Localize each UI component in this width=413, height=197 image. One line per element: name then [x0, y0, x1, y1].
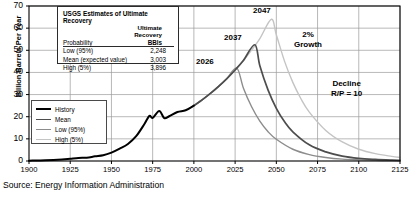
usgs-row-label-high: High (5%)	[63, 64, 91, 73]
legend-color-swatch	[36, 119, 51, 120]
legend-item-label: Mean	[55, 116, 71, 123]
legend-color-swatch	[36, 129, 51, 130]
usgs-table-header-row: Probability BBls	[63, 39, 174, 48]
y-tick-label: 40	[1, 66, 23, 76]
usgs-col-header-bbls: BBls	[148, 39, 174, 46]
usgs-subheader-line-2: Recovery	[63, 32, 174, 39]
x-tick-label: 2050	[256, 165, 296, 174]
legend-item: High (5%)	[36, 134, 106, 144]
legend-item: History	[36, 104, 106, 114]
y-axis-title: Billion Barrels Per Year	[14, 0, 23, 119]
x-tick-label: 2125	[380, 165, 413, 174]
peak-label-2047: 2047	[253, 6, 271, 15]
y-tick-label: 70	[1, 0, 23, 10]
y-tick-label: 60	[1, 22, 23, 32]
x-tick-label: 1975	[133, 165, 173, 174]
y-tick-label: 30	[1, 89, 23, 99]
x-tick-label: 2100	[339, 165, 379, 174]
usgs-row-label-low: Low (95%)	[63, 47, 93, 56]
legend-item: Low (95%)	[36, 124, 106, 134]
usgs-row-value-high: 3,896	[150, 64, 174, 73]
x-tick-label: 2000	[174, 165, 214, 174]
usgs-table-title: USGS Estimates of Ultimate Recovery	[63, 10, 174, 24]
usgs-col-header-probability: Probability	[63, 39, 92, 46]
y-tick-label: 50	[1, 44, 23, 54]
table-row: Mean (expected value) 3,003	[63, 56, 174, 65]
y-tick-label: 20	[1, 111, 23, 121]
usgs-row-value-low: 2,248	[150, 47, 174, 56]
x-tick-label: 2025	[215, 165, 255, 174]
chart-area: Billion Barrels Per Year USGS Estimates …	[0, 0, 406, 175]
growth-label: 2%Growth	[294, 30, 322, 50]
legend-item: Mean	[36, 114, 106, 124]
y-tick-label: 0	[1, 155, 23, 165]
x-tick-label: 2075	[298, 165, 338, 174]
usgs-estimates-table: USGS Estimates of Ultimate Recovery Ulti…	[57, 6, 179, 64]
peak-label-2026: 2026	[196, 57, 214, 66]
legend-item-label: High (5%)	[55, 136, 83, 143]
table-row: Low (95%) 2,248	[63, 47, 174, 56]
table-row: High (5%) 3,896	[63, 64, 174, 73]
legend-color-swatch	[36, 139, 51, 140]
chart-legend: HistoryMeanLow (95%)High (5%)	[31, 100, 107, 144]
decline-label: DeclineR/P = 10	[331, 79, 362, 99]
usgs-row-value-mean: 3,003	[150, 56, 174, 65]
peak-label-2037: 2037	[224, 33, 242, 42]
x-tick-label: 1950	[91, 165, 131, 174]
source-note: Source: Energy Information Administratio…	[3, 180, 164, 190]
x-tick-label: 1925	[50, 165, 90, 174]
legend-item-label: History	[55, 106, 75, 113]
y-tick-label: 10	[1, 133, 23, 143]
x-tick-label: 1900	[9, 165, 49, 174]
series-line-mean	[194, 45, 400, 161]
usgs-row-label-mean: Mean (expected value)	[63, 56, 127, 65]
legend-item-label: Low (95%)	[55, 126, 85, 133]
legend-color-swatch	[36, 108, 51, 110]
